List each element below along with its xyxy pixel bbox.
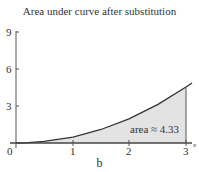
x-axis-label: x	[192, 141, 197, 149]
area-annotation: area ≈ 4.33	[130, 123, 180, 135]
chart-plot: 9 6 3 0 1 2 3 x area ≈ 4.33	[0, 0, 199, 172]
y-tick-6: 6	[6, 63, 12, 75]
y-tick-3: 3	[6, 100, 12, 112]
y-tick-9: 9	[6, 26, 12, 38]
figure-caption: b	[0, 156, 199, 171]
